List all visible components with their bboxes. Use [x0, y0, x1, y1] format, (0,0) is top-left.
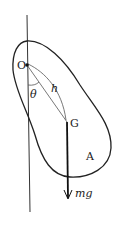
- label-theta: θ: [30, 88, 37, 101]
- weight-arrow-shaft: [67, 122, 68, 198]
- label-weight-mg: mg: [75, 187, 92, 200]
- theta-angle-arc: [28, 82, 39, 85]
- label-pivot-o: O: [17, 59, 26, 72]
- label-center-of-mass-g: G: [70, 117, 79, 130]
- label-body-a: A: [85, 150, 95, 163]
- label-h: h: [51, 82, 58, 95]
- physical-pendulum-diagram: O θ h G A mg: [0, 0, 124, 226]
